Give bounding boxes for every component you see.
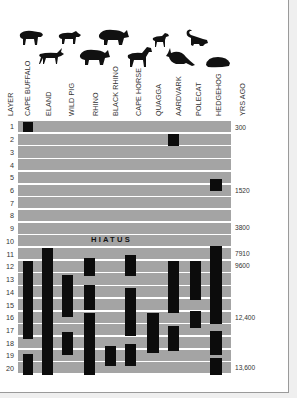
bar-hedgehog	[210, 358, 222, 375]
layer-label: 20	[0, 364, 14, 373]
column-label-black-rhino: BLACK RHINO	[111, 80, 121, 116]
layer-band	[18, 134, 231, 145]
layer-band	[18, 185, 231, 196]
years-ago-label: 300	[235, 124, 246, 131]
layer-label: 9	[0, 224, 14, 233]
layer-label: 6	[0, 186, 14, 195]
bar-aardvark	[168, 261, 179, 313]
cape-buffalo-icon	[18, 30, 44, 46]
aardvark-icon	[166, 48, 196, 68]
bar-aardvark	[168, 134, 179, 146]
layer-band	[18, 121, 231, 132]
bar-hedgehog	[210, 179, 222, 191]
bar-rhino	[84, 285, 95, 310]
bar-hedgehog	[210, 331, 222, 355]
column-label-quagga: QUAGGA	[154, 80, 164, 116]
layer-label: 14	[0, 288, 14, 297]
years-ago-label: 12,400	[235, 314, 255, 321]
bar-polecat	[190, 311, 201, 328]
years-ago-label: 1520	[235, 187, 250, 194]
layer-axis-label: LAYER	[6, 80, 16, 116]
years-ago-label: 3800	[235, 224, 250, 231]
polecat-icon	[183, 28, 209, 48]
layer-label: 4	[0, 161, 14, 170]
layer-band	[18, 223, 231, 234]
animal-silhouettes	[0, 0, 288, 75]
layer-label: 19	[0, 351, 14, 360]
layer-label: 3	[0, 148, 14, 157]
layer-label: 7	[0, 199, 14, 208]
rhino-icon	[79, 48, 111, 66]
bar-rhino	[84, 258, 95, 276]
layer-label: 18	[0, 339, 14, 348]
layer-band	[18, 210, 231, 221]
layer-label: 8	[0, 211, 14, 220]
layer-band	[18, 172, 231, 183]
hiatus-annotation: HIATUS	[91, 235, 132, 244]
bar-hedgehog	[210, 246, 222, 324]
bar-cape-buffalo	[23, 122, 33, 132]
bar-rhino	[84, 313, 95, 375]
years-ago-label: 7910	[235, 250, 250, 257]
column-label-cape-buffalo: CAPE BUFFALO	[23, 80, 33, 116]
layer-band	[18, 159, 231, 170]
bar-black-rhino	[105, 346, 116, 366]
bar-cape-horse	[125, 344, 136, 366]
layer-label: 15	[0, 301, 14, 310]
layer-label: 13	[0, 275, 14, 284]
layer-label: 16	[0, 313, 14, 322]
bar-cape-horse	[125, 255, 136, 276]
stratigraphy-chart: HIATUS	[18, 121, 231, 375]
years-ago-label: 13,600	[235, 364, 255, 371]
bar-cape-buffalo	[23, 354, 33, 375]
layer-label: 2	[0, 135, 14, 144]
figure-page: LAYER CAPE BUFFALO ELAND WILD PIG RHINO …	[0, 0, 289, 393]
layer-label: 5	[0, 173, 14, 182]
bar-aardvark	[168, 326, 179, 351]
layer-band	[18, 146, 231, 157]
column-label-cape-horse: CAPE HORSE	[134, 80, 144, 116]
hedgehog-icon	[205, 56, 231, 68]
layer-label: 10	[0, 237, 14, 246]
eland-icon	[37, 48, 65, 65]
bar-wild-pig	[62, 332, 73, 355]
cape-horse-icon	[127, 46, 153, 68]
layer-label: 17	[0, 326, 14, 335]
layer-label: 12	[0, 262, 14, 271]
bar-cape-horse	[125, 288, 136, 336]
wild-pig-icon	[58, 30, 82, 45]
layer-label: 1	[0, 122, 14, 131]
bar-wild-pig	[62, 275, 73, 317]
yrs-ago-axis-label: YRS AGO	[238, 80, 248, 116]
black-rhino-icon	[98, 28, 130, 46]
column-label-aardvark: AARDVARK	[174, 80, 184, 116]
column-label-polecat: POLECAT	[194, 80, 204, 116]
column-label-hedgehog: HEDGEHOG	[214, 80, 224, 116]
quagga-icon	[152, 32, 170, 48]
column-label-rhino: RHINO	[91, 80, 101, 116]
bar-polecat	[190, 261, 201, 300]
layer-label: 11	[0, 250, 14, 259]
layer-band	[18, 197, 231, 208]
bar-quagga	[147, 313, 159, 353]
years-ago-label: 9600	[235, 262, 250, 269]
bar-eland	[42, 248, 53, 375]
column-label-wild-pig: WILD PIG	[67, 80, 77, 116]
column-label-eland: ELAND	[44, 80, 54, 116]
bar-cape-buffalo	[23, 261, 33, 339]
